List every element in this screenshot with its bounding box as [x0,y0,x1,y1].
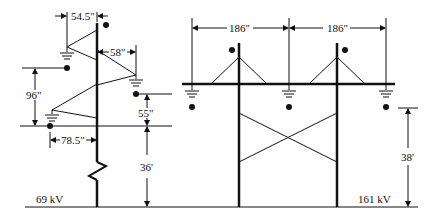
shield-wire-conductor [342,47,348,53]
dim-label-38ft: 38' [401,151,414,163]
shield-wire-conductor [229,47,235,53]
lower-left-crossarm [52,84,97,118]
dim-label-78-5: 78.5" [61,134,85,146]
right-tower-161kv [172,18,418,207]
dim-label-58: 58" [110,46,126,58]
dim-label-186-left: 186" [229,22,250,34]
insulator-icon [45,110,59,121]
dim-label-96: 96" [26,89,42,101]
insulator-icon [379,84,393,97]
dim-label-54-5: 54.5" [71,10,95,22]
phase-conductor [383,104,389,110]
pole-break-symbol [89,162,106,180]
dim-label-36ft: 36' [140,161,153,173]
dim-label-186-right: 186" [327,22,348,34]
insulator-icon [282,84,296,97]
phase-conductor [189,104,195,110]
transmission-tower-diagram: 54.5" 58" 96" 55" 78.5" 36' 69 kV [0,0,436,220]
voltage-label-161kv: 161 kV [358,193,391,205]
insulator-icon [185,84,199,97]
dim-label-55: 55" [138,107,154,119]
shield-wire-conductor [103,22,109,28]
phase-conductor [286,104,292,110]
voltage-label-69kv: 69 kV [36,193,63,205]
